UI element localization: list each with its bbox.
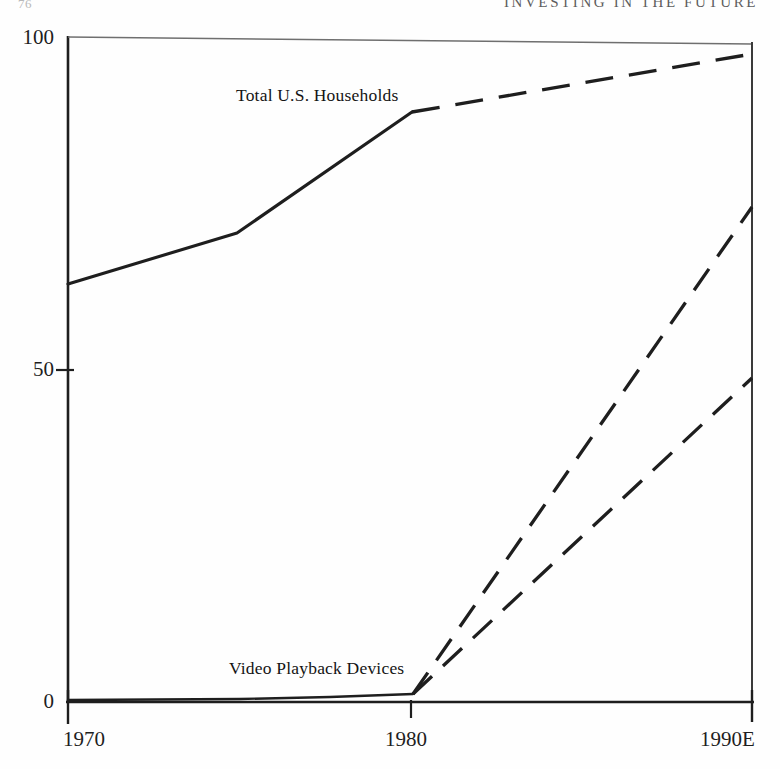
top-rule — [68, 37, 752, 44]
xtick-label-1990e: 1990E — [700, 729, 755, 750]
xtick-label-1980: 1980 — [385, 729, 427, 750]
series-video-projection-low — [413, 378, 752, 694]
series-video-solid — [68, 694, 413, 700]
series-label-video: Video Playback Devices — [229, 658, 404, 679]
chart-axes — [66, 36, 754, 703]
ytick-label-100: 100 — [0, 27, 54, 48]
series-label-households: Total U.S. Households — [236, 85, 398, 106]
line-chart: 100 50 0 1970 1980 1990E Total U.S. Hous… — [0, 0, 780, 769]
ytick-label-0: 0 — [0, 691, 54, 712]
chart-canvas — [0, 0, 780, 769]
xtick-label-1970: 1970 — [63, 729, 105, 750]
series-households-projection — [412, 54, 752, 112]
ytick-label-50: 50 — [0, 359, 54, 380]
book-page: 76 INVESTING IN THE FUTURE — [0, 0, 780, 769]
series-video-projection-high — [413, 207, 752, 694]
series-households-solid — [68, 112, 412, 284]
